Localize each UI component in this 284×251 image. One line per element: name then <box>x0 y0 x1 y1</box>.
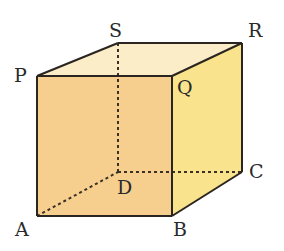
vertex-label-q: Q <box>177 76 193 98</box>
front-face <box>37 76 172 216</box>
vertex-label-c: C <box>249 160 264 182</box>
vertex-label-p: P <box>14 64 27 86</box>
vertex-label-a: A <box>14 218 29 240</box>
vertex-label-r: R <box>248 19 263 41</box>
vertex-label-d: D <box>117 176 132 198</box>
cube-svg: S R P Q D C A B <box>0 0 284 251</box>
vertex-label-s: S <box>109 19 122 41</box>
vertex-label-b: B <box>173 218 187 240</box>
cube-diagram: S R P Q D C A B <box>0 0 284 251</box>
